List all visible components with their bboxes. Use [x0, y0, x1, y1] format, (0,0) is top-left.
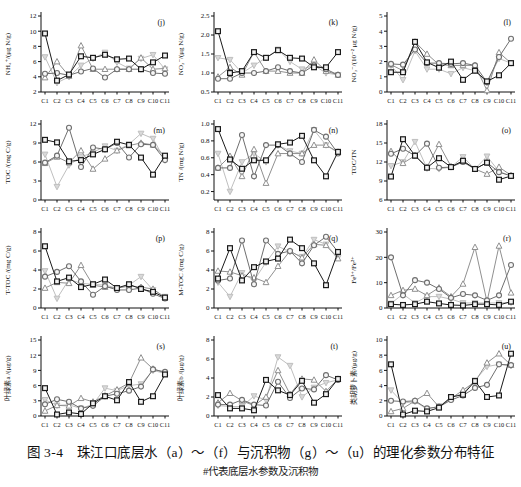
- y-tick-label: 0.8: [201, 137, 210, 145]
- y-tick-label: 0: [33, 412, 37, 420]
- data-point-circle: [312, 387, 317, 392]
- y-tick-label: 4: [206, 266, 210, 274]
- data-point-square: [336, 149, 341, 154]
- y-tick-label: 4: [33, 266, 37, 274]
- series-triangle-down: [388, 362, 514, 412]
- data-point-square: [461, 77, 466, 82]
- figure-3-4: 24681012C1C2C3C4C5C6C7C8C9C10C11NH₄⁺/(μg…: [0, 0, 521, 478]
- data-point-square: [67, 72, 72, 77]
- y-tick-label: 12: [30, 352, 38, 360]
- panel-label: (t): [330, 342, 338, 351]
- data-point-square: [461, 303, 466, 308]
- data-point-circle: [389, 398, 394, 403]
- figure-caption: 图 3-4 珠江口底层水（a）～（f）与沉积物（g）～（u）的理化参数分布特征: [0, 441, 521, 461]
- x-tick-label: C8: [298, 421, 305, 428]
- data-point-square: [79, 412, 84, 417]
- chart-panel-t: 02468C1C2C3C4C5C6C7C8C9C10C11叶绿素b /(μg/g…: [174, 330, 347, 438]
- data-point-circle: [300, 261, 305, 266]
- x-tick-label: C11: [160, 97, 170, 104]
- data-point-triangle-down: [299, 395, 305, 400]
- data-point-circle: [473, 293, 478, 298]
- data-point-square: [151, 172, 156, 177]
- data-point-square: [79, 285, 84, 290]
- data-point-circle: [497, 55, 502, 60]
- data-point-triangle-down: [215, 151, 221, 156]
- data-point-square: [79, 54, 84, 59]
- data-point-triangle-down: [42, 152, 48, 157]
- y-tick-label: 2: [33, 285, 37, 293]
- data-point-circle: [509, 262, 514, 267]
- y-tick-label: 20: [376, 254, 384, 262]
- x-tick-label: C10: [321, 97, 332, 104]
- data-point-square: [91, 152, 96, 157]
- x-tick-label: C11: [160, 421, 170, 428]
- x-tick-label: C2: [399, 313, 406, 320]
- data-point-square: [216, 276, 221, 281]
- y-tick-label: 0: [206, 412, 210, 420]
- y-tick-label: 15: [376, 139, 384, 147]
- y-tick-label: 2: [379, 397, 383, 405]
- data-point-circle: [43, 71, 48, 76]
- data-point-square: [473, 167, 478, 172]
- data-point-triangle-up: [484, 87, 490, 92]
- data-point-square: [449, 303, 454, 308]
- data-point-triangle-up: [42, 285, 48, 290]
- y-tick-label: 6: [206, 247, 210, 255]
- data-point-square: [425, 60, 430, 65]
- x-tick-label: C10: [148, 313, 159, 320]
- data-point-triangle-down: [287, 363, 293, 368]
- data-point-circle: [389, 255, 394, 260]
- x-tick-label: C4: [250, 421, 258, 428]
- x-tick-label: C10: [494, 205, 505, 212]
- data-point-circle: [139, 142, 144, 147]
- x-tick-label: C7: [113, 421, 120, 428]
- data-point-circle: [312, 243, 317, 248]
- x-tick-label: C9: [483, 205, 490, 212]
- data-point-square: [497, 303, 502, 308]
- y-tick-label: 9: [379, 177, 383, 185]
- data-point-square: [461, 158, 466, 163]
- y-tick-label: 3: [33, 177, 37, 185]
- data-point-circle: [389, 151, 394, 156]
- data-point-circle: [79, 69, 84, 74]
- series-line: [218, 130, 338, 192]
- y-tick-label: 5: [379, 12, 383, 20]
- data-point-square: [449, 395, 454, 400]
- x-tick-label: C9: [483, 421, 490, 428]
- x-tick-label: C7: [113, 313, 120, 320]
- x-tick-label: C7: [459, 97, 466, 104]
- data-point-circle: [509, 36, 514, 41]
- data-point-triangle-up: [78, 148, 84, 153]
- chart-svg: 03691215C1C2C3C4C5C6C7C8C9C10C11叶绿素a /(μ…: [1, 330, 174, 438]
- x-tick-label: C10: [321, 313, 332, 320]
- data-point-square: [91, 401, 96, 406]
- x-tick-label: C9: [483, 97, 490, 104]
- x-tick-label: C10: [494, 313, 505, 320]
- data-point-triangle-down: [54, 184, 60, 189]
- x-tick-label: C1: [41, 421, 48, 428]
- data-point-square: [276, 142, 281, 147]
- x-tick-label: C3: [411, 97, 418, 104]
- y-tick-label: 6: [33, 382, 37, 390]
- data-point-square: [240, 278, 245, 283]
- data-point-square: [103, 52, 108, 57]
- data-point-circle: [79, 165, 84, 170]
- y-axis-label: TOC/TN: [350, 149, 358, 174]
- x-tick-label: C8: [125, 97, 132, 104]
- x-tick-label: C6: [101, 313, 108, 320]
- data-point-square: [115, 398, 120, 403]
- data-point-square: [389, 302, 394, 307]
- data-point-triangle-down: [400, 78, 406, 83]
- data-point-triangle-down: [227, 294, 233, 299]
- x-tick-label: C4: [423, 97, 431, 104]
- chart-svg: 012345C1C2C3C4C5C6C7C8C9C10C11NO₃⁻/(10⁻²…: [347, 6, 520, 114]
- chart-svg: 0.51.01.52.02.5C1C2C3C4C5C6C7C8C9C10C11N…: [174, 6, 347, 114]
- data-point-circle: [389, 61, 394, 66]
- charts-grid: 24681012C1C2C3C4C5C6C7C8C9C10C11NH₄⁺/(μg…: [1, 6, 520, 438]
- data-point-circle: [324, 134, 329, 139]
- data-point-circle: [324, 373, 329, 378]
- y-axis-label: TOC /(mg C/g): [4, 140, 12, 184]
- data-point-square: [449, 59, 454, 64]
- data-point-square: [264, 158, 269, 163]
- data-point-square: [228, 406, 233, 411]
